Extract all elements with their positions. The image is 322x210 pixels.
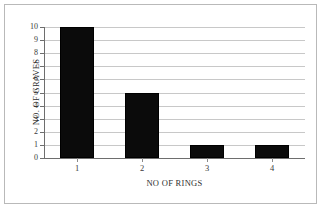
- y-tick-mark-0: [40, 158, 44, 159]
- bar-category-2[interactable]: [125, 93, 159, 159]
- x-tick-mark-4: [272, 158, 273, 162]
- bar-category-1[interactable]: [60, 27, 94, 158]
- y-tick-mark-10: [40, 27, 44, 28]
- x-tick-label-1: 1: [62, 164, 92, 173]
- plot-area: [44, 27, 305, 158]
- y-axis-title: NO. OF GRAVES: [31, 37, 41, 147]
- x-axis-title: NO OF RINGS: [44, 178, 305, 188]
- x-tick-label-4: 4: [257, 164, 287, 173]
- bar-category-4[interactable]: [255, 145, 289, 158]
- x-tick-label-2: 2: [127, 164, 157, 173]
- x-tick-label-3: 3: [192, 164, 222, 173]
- y-axis-title-wrapper: NO. OF GRAVES: [22, 0, 34, 210]
- x-tick-mark-1: [77, 158, 78, 162]
- x-tick-mark-3: [207, 158, 208, 162]
- x-tick-mark-2: [142, 158, 143, 162]
- bar-chart: 10 9 8 7 6 5 4 3 2 1 0 1 2 3 4 NO OF RIN…: [0, 0, 322, 210]
- y-axis-line: [44, 27, 45, 159]
- bar-category-3[interactable]: [190, 145, 224, 158]
- gridline-baseline-0: [44, 158, 305, 159]
